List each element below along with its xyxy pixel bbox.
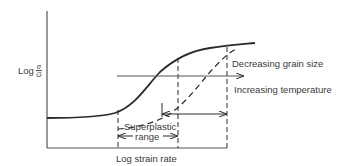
range-label: range bbox=[135, 132, 159, 142]
y-axis-label-prefix: Log bbox=[18, 65, 34, 76]
x-axis-label: Log strain rate bbox=[116, 154, 177, 164]
y-axis-fraction: σ G bbox=[36, 63, 42, 78]
decreasing-grain-size-label: Decreasing grain size bbox=[232, 59, 323, 69]
dashed-curve bbox=[118, 49, 236, 129]
y-axis-label: Log σ G bbox=[18, 63, 42, 78]
solid-curve bbox=[47, 43, 255, 118]
superplastic-diagram bbox=[0, 0, 344, 166]
increasing-temperature-label: Increasing temperature bbox=[234, 85, 332, 95]
y-axis-numerator: σ bbox=[36, 63, 42, 71]
y-axis-denominator: G bbox=[36, 71, 41, 78]
